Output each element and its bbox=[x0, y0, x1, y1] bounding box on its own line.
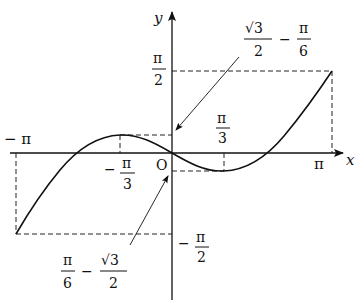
svg-text:6: 6 bbox=[299, 43, 308, 59]
tick-pi: π bbox=[314, 155, 324, 173]
svg-text:2: 2 bbox=[154, 72, 163, 88]
tick-pi-over-2: π 2 bbox=[152, 50, 166, 88]
annotation-max-value: √3 2 − π 6 bbox=[244, 20, 311, 59]
annotation-min-value: π 6 − √3 2 bbox=[61, 252, 127, 291]
svg-text:−: − bbox=[178, 235, 190, 251]
svg-text:√3: √3 bbox=[101, 252, 119, 268]
svg-text:2: 2 bbox=[109, 275, 118, 291]
annotation-arrow-max bbox=[176, 57, 239, 130]
tick-neg-pi-over-2: − π 2 bbox=[178, 229, 209, 265]
svg-text:−: − bbox=[81, 263, 93, 279]
svg-text:π: π bbox=[299, 20, 308, 36]
svg-text:π: π bbox=[122, 155, 131, 171]
svg-text:−: − bbox=[279, 31, 291, 47]
svg-text:3: 3 bbox=[123, 176, 132, 192]
tick-neg-pi-over-3: − π 3 bbox=[104, 155, 135, 192]
annotation-arrow-min bbox=[130, 176, 168, 245]
x-axis-label: x bbox=[346, 151, 355, 169]
svg-text:π: π bbox=[63, 252, 72, 268]
svg-text:π: π bbox=[153, 50, 162, 66]
function-graph: y x O − π π π 3 − π 3 π 2 − π 2 √3 2 − π… bbox=[0, 0, 359, 305]
svg-text:√3: √3 bbox=[245, 20, 263, 36]
svg-text:π: π bbox=[217, 110, 226, 126]
svg-text:π: π bbox=[196, 229, 205, 245]
svg-text:2: 2 bbox=[197, 249, 206, 265]
svg-text:3: 3 bbox=[218, 130, 227, 146]
svg-text:−: − bbox=[104, 161, 116, 177]
y-axis-label: y bbox=[153, 9, 163, 27]
tick-neg-pi: − π bbox=[4, 130, 31, 148]
svg-text:6: 6 bbox=[63, 275, 72, 291]
tick-pi-over-3: π 3 bbox=[216, 110, 230, 146]
svg-text:2: 2 bbox=[254, 43, 263, 59]
origin-label: O bbox=[156, 157, 167, 173]
